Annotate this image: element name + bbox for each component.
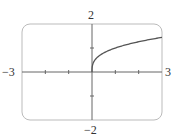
x-max-label: 3 [165, 66, 171, 78]
plot-area [0, 0, 172, 138]
x-min-label: −3 [2, 66, 15, 78]
y-min-label: −2 [84, 124, 97, 136]
function-curve [92, 37, 162, 72]
y-max-label: 2 [88, 9, 94, 21]
